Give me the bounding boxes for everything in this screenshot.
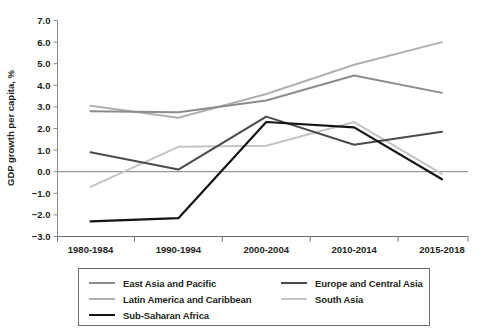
legend-grid: East Asia and PacificEurope and Central …	[89, 275, 425, 323]
x-tick-label: 1980-1984	[68, 244, 114, 255]
legend-row: Latin America and CaribbeanSouth Asia	[89, 291, 425, 307]
legend-line-swatch	[281, 282, 307, 284]
series-line-south-asia	[91, 122, 443, 187]
legend-item-label: Latin America and Caribbean	[123, 294, 251, 305]
x-tick-label: 1990-1994	[156, 244, 202, 255]
legend-line-swatch	[89, 314, 115, 316]
y-tick-label: 3.0	[37, 101, 50, 112]
legend-item-label: Europe and Central Asia	[315, 278, 423, 289]
y-tick-label: −1.0	[32, 188, 51, 199]
legend-item[interactable]: Sub-Saharan Africa	[89, 307, 281, 323]
legend-item-label: South Asia	[315, 294, 363, 305]
y-tick-label: 4.0	[37, 80, 50, 91]
legend-row: Sub-Saharan Africa	[89, 307, 425, 323]
legend-line-swatch	[89, 298, 115, 300]
y-tick-label: −2.0	[32, 209, 51, 220]
legend-item[interactable]: Latin America and Caribbean	[89, 291, 281, 307]
y-tick-label: 5.0	[37, 58, 50, 69]
y-axis-title: GDP growth per capita, %	[5, 69, 16, 186]
series-line-latin-america-and-caribbean	[91, 42, 443, 118]
legend-item[interactable]: South Asia	[281, 291, 425, 307]
legend-item-label: Sub-Saharan Africa	[123, 310, 209, 321]
y-tick-label: 0.0	[37, 166, 50, 177]
x-tick-label: 2015-2018	[419, 244, 464, 255]
chart-figure: 7.06.05.04.03.02.01.00.0−1.0−2.0−3.01980…	[0, 0, 481, 334]
legend-item[interactable]: Europe and Central Asia	[281, 275, 425, 291]
legend-item-label: East Asia and Pacific	[123, 278, 216, 289]
y-tick-label: 2.0	[37, 123, 50, 134]
y-tick-label: 6.0	[37, 37, 50, 48]
legend-line-swatch	[89, 282, 115, 284]
line-chart-plot: 7.06.05.04.03.02.01.00.0−1.0−2.0−3.01980…	[0, 0, 481, 268]
x-tick-label: 2010-2014	[331, 244, 377, 255]
y-tick-label: −3.0	[32, 231, 51, 242]
chart-legend: East Asia and PacificEurope and Central …	[78, 268, 430, 326]
y-tick-label: 7.0	[37, 15, 50, 26]
x-tick-label: 2000-2004	[244, 244, 290, 255]
legend-item[interactable]: East Asia and Pacific	[89, 275, 281, 291]
legend-row: East Asia and PacificEurope and Central …	[89, 275, 425, 291]
y-tick-label: 1.0	[37, 145, 50, 156]
legend-line-swatch	[281, 298, 307, 300]
